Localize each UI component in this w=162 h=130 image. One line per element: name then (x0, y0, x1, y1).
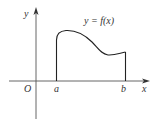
interval-left-label: a (54, 83, 59, 94)
x-axis-label: x (141, 83, 147, 94)
curve-label: y = f(x) (83, 15, 115, 27)
function-graph: y x O a b y = f(x) (0, 0, 162, 130)
origin-label: O (24, 83, 31, 94)
interval-right-label: b (121, 83, 126, 94)
function-curve (57, 30, 126, 55)
y-axis-label: y (23, 8, 29, 19)
